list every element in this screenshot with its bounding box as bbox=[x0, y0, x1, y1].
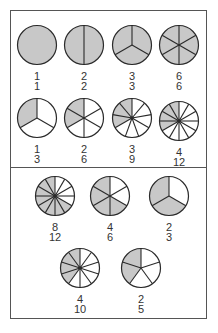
fraction-label: 66 bbox=[164, 71, 194, 91]
denominator: 2 bbox=[69, 81, 99, 91]
numerator: 2 bbox=[126, 294, 156, 304]
fraction-circle-4-6 bbox=[90, 177, 129, 216]
denominator: 1 bbox=[22, 81, 52, 91]
denominator: 12 bbox=[164, 157, 194, 167]
fraction-circle-6-6 bbox=[160, 26, 199, 65]
numerator: 1 bbox=[22, 144, 52, 154]
denominator: 10 bbox=[65, 304, 95, 314]
fraction-label: 26 bbox=[69, 144, 99, 164]
numerator: 3 bbox=[117, 71, 147, 81]
denominator: 3 bbox=[22, 154, 52, 164]
denominator: 5 bbox=[126, 304, 156, 314]
fraction-circles-diagram: 11223366132639412812462341025 bbox=[0, 0, 218, 333]
fraction-label: 11 bbox=[22, 71, 52, 91]
fraction-circle-3-9 bbox=[112, 99, 151, 138]
numerator: 8 bbox=[40, 222, 70, 232]
denominator: 6 bbox=[95, 232, 125, 242]
fraction-label: 39 bbox=[117, 144, 147, 164]
denominator: 9 bbox=[117, 154, 147, 164]
numerator: 6 bbox=[164, 71, 194, 81]
fraction-label: 812 bbox=[40, 222, 70, 242]
denominator: 3 bbox=[117, 81, 147, 91]
fraction-circle-2-3 bbox=[149, 177, 188, 216]
fraction-circle-1-1 bbox=[18, 26, 57, 65]
fraction-label: 33 bbox=[117, 71, 147, 91]
numerator: 4 bbox=[164, 147, 194, 157]
fraction-label: 22 bbox=[69, 71, 99, 91]
denominator: 6 bbox=[164, 81, 194, 91]
fraction-label: 412 bbox=[164, 147, 194, 167]
numerator: 2 bbox=[69, 144, 99, 154]
denominator: 12 bbox=[40, 232, 70, 242]
fraction-circle-2-6 bbox=[65, 99, 104, 138]
denominator: 6 bbox=[69, 154, 99, 164]
fraction-circle-3-3 bbox=[113, 26, 152, 65]
fraction-label: 13 bbox=[22, 144, 52, 164]
numerator: 1 bbox=[22, 71, 52, 81]
fraction-label: 46 bbox=[95, 222, 125, 242]
fraction-circle-4-12 bbox=[160, 102, 199, 141]
numerator: 2 bbox=[154, 222, 184, 232]
numerator: 2 bbox=[69, 71, 99, 81]
fraction-label: 25 bbox=[126, 294, 156, 314]
fraction-circle-4-10 bbox=[61, 249, 100, 288]
fraction-circle-2-2 bbox=[65, 26, 104, 65]
numerator: 4 bbox=[65, 294, 95, 304]
numerator: 3 bbox=[117, 144, 147, 154]
fraction-circle-2-5 bbox=[122, 249, 161, 288]
fraction-label: 23 bbox=[154, 222, 184, 242]
numerator: 4 bbox=[95, 222, 125, 232]
fraction-circle-8-12 bbox=[36, 177, 75, 216]
fraction-label: 410 bbox=[65, 294, 95, 314]
denominator: 3 bbox=[154, 232, 184, 242]
fraction-circle-1-3 bbox=[17, 99, 56, 138]
diagram-canvas bbox=[0, 0, 218, 333]
